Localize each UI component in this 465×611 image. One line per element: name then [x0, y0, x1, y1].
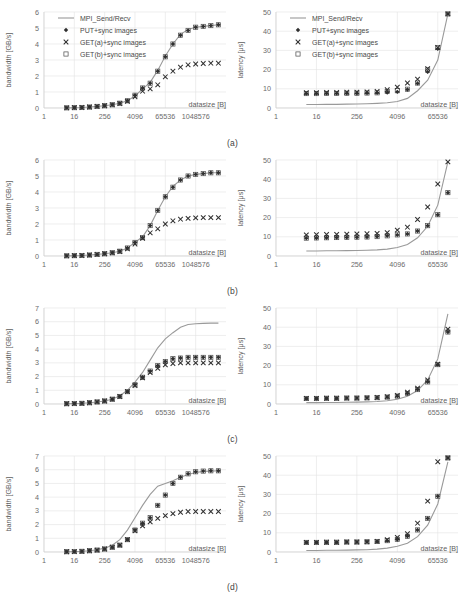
chart-b-latency: 01020304050116256409665536datasize [B]la…: [232, 148, 464, 286]
legend-label: PUT+sync images: [80, 27, 137, 35]
x-tick-label: 1: [42, 112, 46, 121]
y-tick-label: 1: [35, 386, 39, 395]
marker-cross: [209, 215, 214, 220]
x-tick-label: 1048576: [182, 556, 210, 565]
y-tick-label: 50: [263, 8, 271, 17]
chart-d-bandwidth: 012345671162564096655361048576datasize […: [0, 444, 232, 582]
chart-c-bandwidth: 012345671162564096655361048576datasize […: [0, 296, 232, 434]
x-tick-label: 65536: [155, 260, 175, 269]
y-tick-label: 0: [35, 104, 39, 113]
y-tick-label: 2: [35, 372, 39, 381]
legend-label: MPI_Send/Recv: [312, 15, 363, 23]
y-axis-title: bandwidth [GB/s]: [4, 329, 13, 384]
marker-cross: [405, 225, 410, 230]
x-tick-label: 256: [99, 260, 111, 269]
y-tick-label: 4: [35, 40, 39, 49]
y-tick-label: 40: [263, 471, 271, 480]
x-tick-label: 4096: [389, 112, 405, 121]
x-tick-label: 16: [70, 260, 78, 269]
x-tick-label: 16: [70, 112, 78, 121]
marker-cross: [186, 63, 191, 68]
y-tick-label: 7: [35, 304, 39, 313]
x-tick-label: 256: [99, 408, 111, 417]
y-axis-title: latency [μs]: [236, 42, 245, 79]
panel-b: 01234561162564096655361048576datasize [B…: [0, 148, 465, 296]
y-tick-label: 2: [35, 520, 39, 529]
x-axis-title: datasize [B]: [188, 248, 226, 257]
x-axis-title: datasize [B]: [420, 100, 458, 109]
x-tick-label: 256: [99, 112, 111, 121]
panel-label-d: (d): [0, 582, 465, 592]
chart-a-bandwidth: 01234561162564096655361048576datasize [B…: [0, 0, 232, 138]
x-tick-label: 16: [70, 408, 78, 417]
chart-c-bandwidth: 012345671162564096655361048576datasize […: [0, 296, 232, 434]
x-tick-label: 256: [351, 408, 363, 417]
marker-cross: [216, 509, 221, 514]
x-tick-label: 65536: [155, 556, 175, 565]
marker-cross: [155, 83, 160, 88]
x-tick-label: 65536: [428, 556, 448, 565]
y-axis-title: bandwidth [GB/s]: [4, 33, 13, 88]
x-tick-label: 16: [312, 260, 320, 269]
y-tick-label: 10: [263, 528, 271, 537]
figure-root: 01234561162564096655361048576datasize [B…: [0, 0, 465, 592]
y-tick-label: 3: [35, 506, 39, 515]
y-tick-label: 2: [35, 220, 39, 229]
x-tick-label: 256: [351, 260, 363, 269]
y-tick-label: 30: [263, 342, 271, 351]
x-tick-label: 1048576: [182, 112, 210, 121]
x-tick-label: 1048576: [182, 260, 210, 269]
y-tick-label: 4: [35, 493, 39, 502]
x-tick-label: 1048576: [182, 408, 210, 417]
marker-cross: [171, 511, 176, 516]
x-tick-label: 4096: [389, 260, 405, 269]
legend-marker-open-square: [64, 52, 68, 56]
y-tick-label: 3: [35, 358, 39, 367]
x-tick-label: 256: [351, 112, 363, 121]
y-tick-label: 2: [35, 72, 39, 81]
marker-cross: [415, 521, 420, 526]
y-tick-label: 0: [267, 252, 271, 261]
marker-cross: [425, 499, 430, 504]
marker-cross: [155, 516, 160, 521]
y-tick-label: 1: [35, 88, 39, 97]
y-tick-label: 50: [263, 156, 271, 165]
panel-label-a: (a): [0, 138, 465, 148]
marker-cross: [405, 81, 410, 86]
y-tick-label: 4: [35, 345, 39, 354]
x-axis-title: datasize [B]: [420, 396, 458, 405]
marker-cross: [155, 227, 160, 232]
y-tick-label: 0: [267, 104, 271, 113]
panel-label-c: (c): [0, 434, 465, 444]
y-tick-label: 40: [263, 27, 271, 36]
marker-cross: [171, 69, 176, 74]
y-tick-label: 1: [35, 236, 39, 245]
panel-a: 01234561162564096655361048576datasize [B…: [0, 0, 465, 148]
x-tick-label: 256: [99, 556, 111, 565]
x-tick-label: 65536: [155, 112, 175, 121]
legend-label: GET(a)+sync images: [312, 39, 378, 47]
x-tick-label: 16: [70, 556, 78, 565]
y-axis-title: latency [μs]: [236, 486, 245, 523]
y-tick-label: 30: [263, 46, 271, 55]
x-tick-label: 1: [42, 556, 46, 565]
legend-marker-diamond: [64, 28, 68, 32]
marker-cross: [216, 215, 221, 220]
y-tick-label: 20: [263, 65, 271, 74]
y-tick-label: 7: [35, 452, 39, 461]
marker-cross: [209, 61, 214, 66]
x-tick-label: 65536: [428, 112, 448, 121]
marker-cross: [216, 61, 221, 66]
x-tick-label: 16: [312, 408, 320, 417]
y-tick-label: 0: [267, 548, 271, 557]
y-tick-label: 50: [263, 304, 271, 313]
x-axis-title: datasize [B]: [188, 100, 226, 109]
legend-label: PUT+sync images: [312, 27, 369, 35]
x-axis-title: datasize [B]: [188, 544, 226, 553]
y-tick-label: 3: [35, 204, 39, 213]
x-tick-label: 4096: [389, 556, 405, 565]
x-tick-label: 1: [42, 260, 46, 269]
x-tick-label: 4096: [127, 408, 143, 417]
y-tick-label: 30: [263, 490, 271, 499]
y-tick-label: 5: [35, 331, 39, 340]
